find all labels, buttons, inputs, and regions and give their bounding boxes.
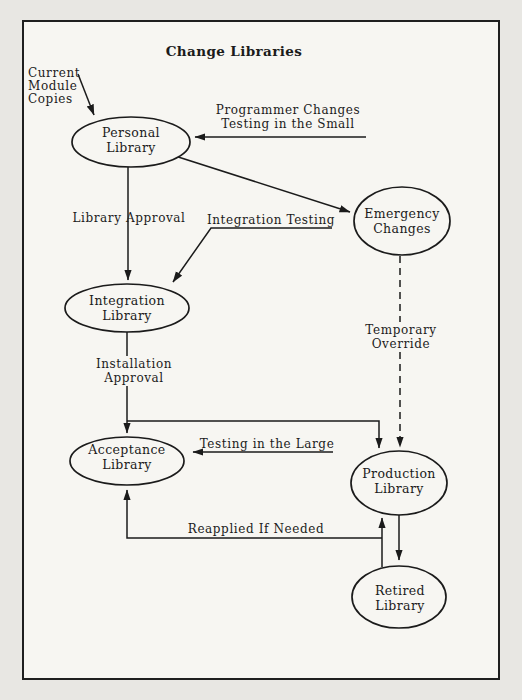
emergency-changes-label-line2: Changes	[364, 221, 439, 236]
emergency-changes-label: Emergency Changes	[364, 206, 439, 236]
reapplied-if-needed-label: Reapplied If Needed	[188, 522, 325, 536]
integration-library-label-line1: Integration	[89, 293, 165, 308]
personal-library-label-line2: Library	[102, 140, 160, 155]
retired-library-label-line1: Retired	[375, 583, 425, 598]
installation-approval-line2: Approval	[96, 371, 172, 385]
retired-library-label-line2: Library	[375, 598, 425, 613]
temporary-override-label: Temporary Override	[362, 322, 439, 352]
integration-library-label-line2: Library	[89, 308, 165, 323]
temporary-override-line1: Temporary	[365, 323, 436, 337]
personal-library-label-line1: Personal	[102, 125, 160, 140]
library-approval-label: Library Approval	[72, 211, 185, 225]
acceptance-library-label: Acceptance Library	[88, 442, 165, 472]
acceptance-library-label-line1: Acceptance	[88, 442, 165, 457]
edge-integration-testing-to-integration	[173, 228, 332, 282]
installation-approval-label: Installation Approval	[93, 356, 175, 386]
programmer-changes-label: Programmer Changes Testing in the Small	[216, 103, 361, 131]
integration-testing-label: Integration Testing	[207, 213, 335, 227]
diagram-title: Change Libraries	[166, 44, 303, 58]
current-module-copies-label: Current Module Copies	[28, 67, 80, 106]
emergency-changes-label-line1: Emergency	[364, 206, 439, 221]
programmer-changes-line1: Programmer Changes	[216, 103, 361, 117]
scanned-page: Change Libraries Personal Library Integr…	[0, 0, 522, 700]
temporary-override-line2: Override	[365, 337, 436, 351]
acceptance-library-label-line2: Library	[88, 457, 165, 472]
production-library-label-line2: Library	[362, 481, 436, 496]
edge-current-copies-to-personal	[78, 74, 94, 115]
edge-personal-to-emergency	[172, 155, 350, 212]
testing-in-the-large-label: Testing in the Large	[200, 437, 335, 451]
current-module-copies-line3: Copies	[28, 93, 80, 106]
production-library-label-line1: Production	[362, 466, 436, 481]
programmer-changes-line2: Testing in the Small	[216, 117, 361, 131]
production-library-label: Production Library	[362, 466, 436, 496]
personal-library-label: Personal Library	[102, 125, 160, 155]
installation-approval-line1: Installation	[96, 357, 172, 371]
retired-library-label: Retired Library	[375, 583, 425, 613]
integration-library-label: Integration Library	[89, 293, 165, 323]
